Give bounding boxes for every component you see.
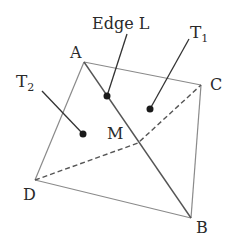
edge-DA xyxy=(35,62,84,180)
vertex-D-label: D xyxy=(23,185,36,204)
edge-CB xyxy=(191,85,201,218)
edge-AC xyxy=(84,62,201,85)
leader-T2 xyxy=(42,91,83,134)
T1-label: T1 xyxy=(190,22,208,45)
point-M-label: M xyxy=(107,124,123,143)
leader-T1 xyxy=(150,39,189,109)
edge-L-label: Edge L xyxy=(92,14,150,33)
tetrahedron-diagram: A C D B M Edge L T1 T2 xyxy=(0,0,232,251)
T1-dot xyxy=(147,106,154,113)
T2-dot xyxy=(80,131,87,138)
leader-edge-L xyxy=(107,34,127,96)
edge-BD xyxy=(35,180,191,218)
vertex-B-label: B xyxy=(196,218,208,237)
vertex-A-label: A xyxy=(69,43,82,62)
edge-L-dot xyxy=(104,93,111,100)
edge-L-AB xyxy=(84,62,191,218)
T2-label: T2 xyxy=(16,71,34,94)
vertex-C-label: C xyxy=(210,75,222,94)
